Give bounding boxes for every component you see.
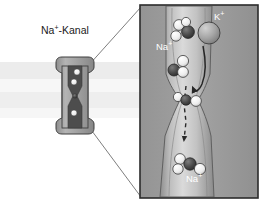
sodium-channel-protein (56, 57, 94, 134)
na-channel-figure: Na+-Kanal (0, 0, 265, 205)
water-molecule (191, 96, 202, 107)
pore-ion-upper (74, 69, 80, 75)
na-plus-label-top-sup: + (168, 40, 172, 47)
sodium-ion-core (181, 95, 191, 105)
water-molecule (178, 67, 189, 78)
sodium-ion-core (182, 26, 195, 39)
water-molecule (177, 55, 188, 66)
na-plus-label-bottom-text: Na (186, 173, 199, 184)
page-title: Na+-Kanal (41, 24, 89, 36)
water-molecule (171, 31, 181, 41)
pore-ion-filter (73, 94, 78, 99)
na-plus-label-top-text: Na (156, 41, 169, 52)
k-plus-label-sup: + (220, 10, 224, 17)
na-plus-label-bottom-sup: + (198, 172, 202, 179)
water-molecule (181, 17, 190, 26)
page-title-rest: -Kanal (59, 24, 89, 36)
pore-ion-middle (71, 79, 77, 85)
potassium-ion (198, 22, 220, 44)
zoom-panel: K+ Na+ Na+ (140, 5, 258, 198)
water-molecule (173, 164, 183, 174)
page-title-text: Na (41, 24, 55, 36)
pore-ion-lower (71, 110, 77, 116)
